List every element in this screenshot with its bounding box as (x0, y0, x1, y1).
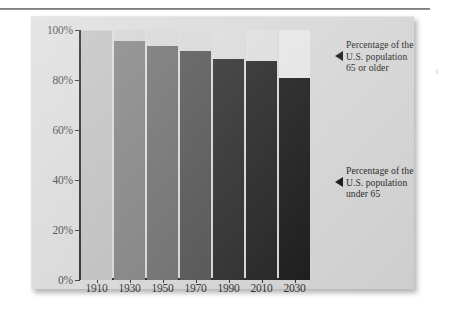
top-horizontal-rule (0, 8, 430, 10)
plot-area: 0%20%40%60%80%100% 191019301950197019902… (79, 30, 309, 282)
x-axis-tick-label: 1970 (185, 282, 207, 294)
bar-segment-65-or-older (246, 30, 277, 61)
y-axis-tick-label: 0% (58, 274, 73, 286)
annotation-65-or-older: Percentage of the U.S. population 65 or … (335, 39, 413, 74)
edge-artifact-glyph: t (436, 66, 439, 76)
bar-segment-under-65 (81, 31, 112, 280)
y-axis-tick (75, 180, 80, 181)
bar-segment-65-or-older (147, 30, 178, 46)
bar-column: 1910 (81, 30, 112, 280)
annotation-label: Percentage of the U.S. population 65 or … (346, 39, 413, 74)
bar-column: 1990 (213, 30, 244, 280)
bar-column: 1950 (147, 30, 178, 280)
y-axis-tick (75, 280, 80, 281)
x-axis-tick-label: 1910 (86, 282, 108, 294)
figure-panel: 0%20%40%60%80%100% 191019301950197019902… (31, 16, 414, 289)
y-axis-tick (75, 130, 80, 131)
bar-column: 1970 (180, 30, 211, 280)
left-triangle-icon (335, 51, 343, 61)
bar-segment-under-65 (213, 59, 244, 280)
x-axis-tick-label: 1990 (218, 282, 240, 294)
y-axis-tick-label: 100% (47, 24, 73, 36)
bar-segment-under-65 (147, 46, 178, 280)
bar-segment-65-or-older (114, 30, 145, 41)
y-axis-tick (75, 80, 80, 81)
annotation-label: Percentage of the U.S. population under … (346, 165, 413, 200)
bar-segment-under-65 (279, 78, 310, 281)
y-axis-tick-label: 60% (53, 124, 73, 136)
annotation-under-65: Percentage of the U.S. population under … (335, 165, 413, 200)
bar-column: 2010 (246, 30, 277, 280)
y-axis-tick (75, 230, 80, 231)
x-axis-tick-label: 1930 (119, 282, 141, 294)
bar-segment-under-65 (180, 51, 211, 281)
x-axis-tick-label: 2030 (284, 282, 306, 294)
bar-column: 1930 (114, 30, 145, 280)
bar-group: 1910193019501970199020102030 (81, 30, 310, 280)
y-axis-tick-label: 20% (53, 224, 73, 236)
bar-segment-65-or-older (213, 30, 244, 59)
x-axis-tick-label: 1950 (152, 282, 174, 294)
bar-column: 2030 (279, 30, 310, 280)
bar-segment-65-or-older (279, 30, 310, 78)
bar-segment-under-65 (246, 61, 277, 281)
x-axis-tick-label: 2010 (251, 282, 273, 294)
bar-segment-65-or-older (180, 30, 211, 51)
y-axis-tick (75, 30, 80, 31)
y-axis-tick-label: 40% (53, 174, 73, 186)
left-triangle-icon (335, 177, 343, 187)
y-axis-tick-label: 80% (53, 74, 73, 86)
bar-segment-under-65 (114, 41, 145, 281)
